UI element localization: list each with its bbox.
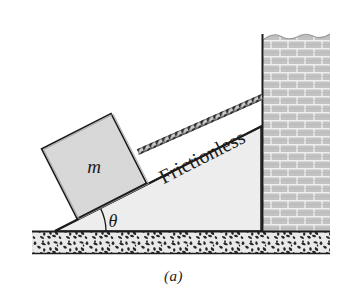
figure-caption: (a) — [0, 268, 347, 285]
stippled-ground-icon — [32, 231, 330, 254]
angle-label: θ — [109, 211, 118, 231]
brick-wall — [262, 28, 330, 233]
block-mass-label: m — [87, 156, 101, 177]
brick-wall-fill — [262, 28, 330, 233]
physics-figure-inclined-plane: m Frictionless θ (a) — [0, 0, 347, 299]
figure-canvas: m Frictionless θ — [0, 0, 347, 299]
ground-fill — [32, 231, 330, 254]
